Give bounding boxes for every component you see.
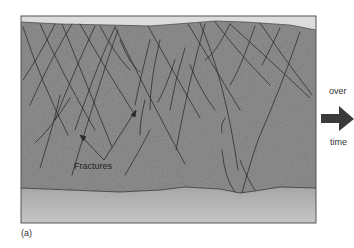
panel-label: (a) (21, 228, 32, 238)
right-arrow-icon (321, 106, 354, 131)
fractures-label: Fractures (74, 161, 112, 171)
fracture-diagram (0, 0, 354, 248)
bedrock-layer (21, 187, 316, 223)
over-label: over (329, 86, 347, 96)
time-label: time (330, 137, 347, 147)
